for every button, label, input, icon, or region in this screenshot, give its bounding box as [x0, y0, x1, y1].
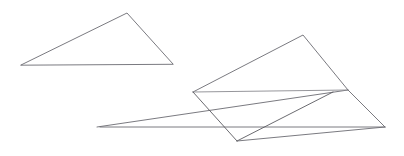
long-diagonal-rise-line [97, 90, 348, 127]
upper-quadrilateral-line [193, 35, 348, 92]
small-triangle-shape [21, 13, 173, 65]
drawing-canvas [0, 0, 404, 156]
inner-quad-left-leg-line [193, 92, 237, 141]
lower-baseline-right-line [237, 127, 385, 141]
large-figure-group [97, 35, 385, 141]
small-triangle-group [21, 13, 173, 65]
right-closing-edge-line [348, 90, 385, 127]
geometric-figure-svg [0, 0, 404, 156]
inner-horizontal-chord-line [193, 90, 348, 92]
